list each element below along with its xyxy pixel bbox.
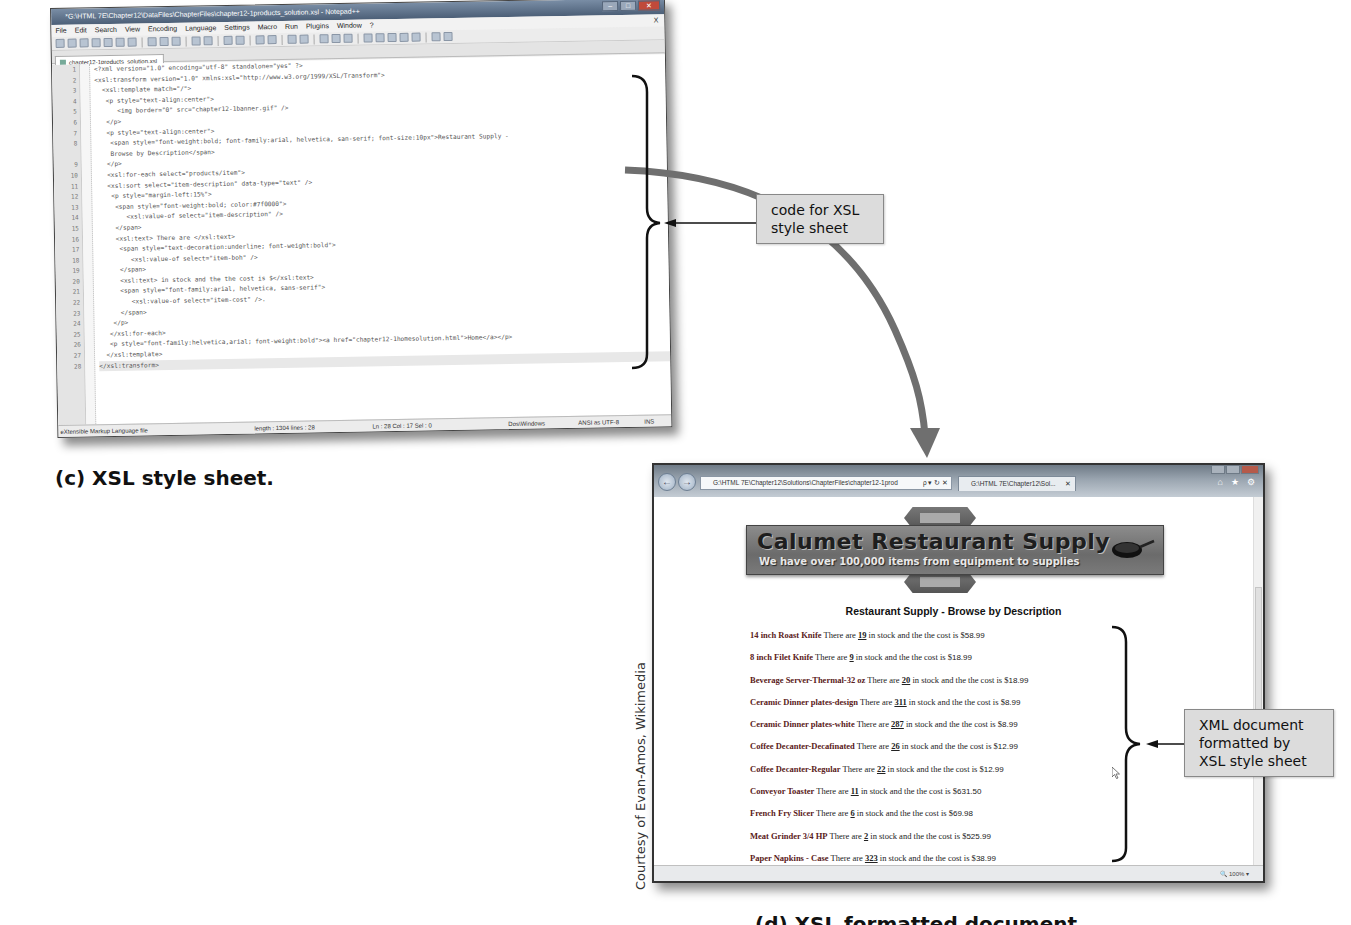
menu-window[interactable]: Window <box>337 20 362 32</box>
close-icon[interactable] <box>104 38 113 47</box>
notepad-plus-plus-window: *G:\HTML 7E\Chapter12\DataFiles\ChapterF… <box>50 0 672 438</box>
product-description: Coffee Decanter-Regular <box>750 764 841 774</box>
save-all-icon[interactable] <box>92 38 101 47</box>
sync-horizontal-icon[interactable] <box>300 34 309 43</box>
close-all-icon[interactable] <box>116 38 125 47</box>
vertical-scrollbar[interactable] <box>1253 497 1263 865</box>
line-number: 13 <box>54 202 78 213</box>
text-in-stock: in stock and the the cost is $ <box>904 719 1002 729</box>
toolbar-separator <box>425 32 426 42</box>
code-area[interactable]: 1<?xml version="1.0" encoding="utf-8" st… <box>90 54 671 424</box>
browser-minimize-button[interactable] <box>1211 465 1225 474</box>
settings-gear-icon[interactable]: ⚙ <box>1247 477 1255 487</box>
text-there-are: There are <box>855 719 891 729</box>
text-there-are: There are <box>858 697 894 707</box>
mouse-pointer-icon <box>1112 767 1120 779</box>
new-file-icon[interactable] <box>56 39 65 48</box>
address-url: G:\HTML 7E\Chapter12\Solutions\ChapterFi… <box>713 479 898 486</box>
minimize-button[interactable]: – <box>602 1 618 11</box>
notepad-window-title: *G:\HTML 7E\Chapter12\DataFiles\ChapterF… <box>65 8 360 20</box>
show-all-chars-icon[interactable] <box>331 34 340 43</box>
back-arrow-icon[interactable]: ← <box>658 473 676 491</box>
code-text: </p> <box>95 117 121 128</box>
zoom-level[interactable]: 🔍 100% ▾ <box>1220 866 1249 882</box>
menu-plugins[interactable]: Plugins <box>306 20 329 32</box>
product-cost: 12.99 <box>984 765 1004 774</box>
menu-language[interactable]: Language <box>185 22 216 35</box>
address-controls[interactable]: ρ ▾ ↻ ✕ <box>923 477 948 489</box>
line-number: 20 <box>56 276 80 287</box>
text-there-are: There are <box>828 853 864 863</box>
line-number: 27 <box>57 351 81 362</box>
text-in-stock: in stock and the the cost is $ <box>854 652 952 662</box>
undo-icon[interactable] <box>192 36 201 45</box>
scrollbar-thumb[interactable] <box>1255 587 1262 727</box>
browser-tab-label: G:\HTML 7E\Chapter12\Sol... <box>971 480 1056 487</box>
product-cost: 12.99 <box>998 742 1018 751</box>
banner-image: Calumet Restaurant Supply We have over 1… <box>746 507 1164 593</box>
status-file-type: eXtensible Markup Language file <box>60 424 148 438</box>
run-macro-multiple-icon[interactable] <box>399 33 408 42</box>
text-in-stock: in stock and the the cost is $ <box>885 764 983 774</box>
play-macro-icon[interactable] <box>387 33 396 42</box>
code-editor[interactable]: 1<?xml version="1.0" encoding="utf-8" st… <box>52 54 671 425</box>
status-insert-mode: INS <box>644 416 654 428</box>
print-icon[interactable] <box>128 37 137 46</box>
menu-encoding[interactable]: Encoding <box>148 23 177 36</box>
menu-file[interactable]: File <box>55 25 66 37</box>
save-macro-icon[interactable] <box>411 33 420 42</box>
menu-run[interactable]: Run <box>285 21 298 33</box>
close-document-button[interactable]: X <box>654 14 659 26</box>
product-item: Meat Grinder 3/4 HP There are 2 in stock… <box>750 830 1029 852</box>
launch-browser-icon[interactable] <box>431 32 440 41</box>
zoom-out-icon[interactable] <box>268 35 277 44</box>
paste-icon[interactable] <box>172 37 181 46</box>
find-icon[interactable] <box>224 36 233 45</box>
browser-tab[interactable]: G:\HTML 7E\Chapter12\Sol... ✕ <box>958 476 1076 491</box>
maximize-button[interactable]: □ <box>620 1 636 11</box>
tab-close-icon[interactable]: ✕ <box>1065 477 1071 490</box>
save-icon[interactable] <box>80 38 89 47</box>
menu-macro[interactable]: Macro <box>257 21 277 33</box>
product-cost: 18.99 <box>1008 676 1028 685</box>
product-description: Conveyor Toaster <box>750 786 814 796</box>
product-cost: 18.99 <box>952 653 972 662</box>
zoom-in-icon[interactable] <box>256 35 265 44</box>
status-encoding: ANSI as UTF-8 <box>578 416 619 429</box>
home-icon[interactable]: ⌂ <box>1218 477 1223 487</box>
menu-settings[interactable]: Settings <box>224 22 250 34</box>
browser-maximize-button[interactable] <box>1226 465 1240 474</box>
line-number: 24 <box>56 319 80 330</box>
sync-vertical-icon[interactable] <box>288 35 297 44</box>
product-item: Conveyor Toaster There are 11 in stock a… <box>750 785 1029 807</box>
window-controls: – □ ✕ <box>602 0 660 11</box>
word-wrap-icon[interactable] <box>320 34 329 43</box>
redo-icon[interactable] <box>204 36 213 45</box>
flow-arrow-head <box>910 428 940 458</box>
text-in-stock: in stock and the the cost is $ <box>910 675 1008 685</box>
text-in-stock: in stock and the the cost is $ <box>907 697 1005 707</box>
address-bar[interactable]: G:\HTML 7E\Chapter12\Solutions\ChapterFi… <box>700 476 952 490</box>
cut-icon[interactable] <box>148 37 157 46</box>
line-number: 7 <box>53 128 77 139</box>
indent-guide-icon[interactable] <box>343 34 352 43</box>
record-macro-icon[interactable] <box>363 33 372 42</box>
favorites-star-icon[interactable]: ★ <box>1231 477 1239 487</box>
open-file-icon[interactable] <box>68 39 77 48</box>
menu-search[interactable]: Search <box>95 24 117 36</box>
stop-macro-icon[interactable] <box>375 33 384 42</box>
menu-view[interactable]: View <box>125 23 140 35</box>
close-button[interactable]: ✕ <box>638 0 660 10</box>
spell-check-icon[interactable] <box>443 32 452 41</box>
line-number: 5 <box>53 107 77 118</box>
status-length: length : 1304 lines : 28 <box>254 421 315 434</box>
forward-arrow-icon[interactable]: → <box>678 473 696 491</box>
text-there-are: There are <box>841 764 877 774</box>
menu-edit[interactable]: Edit <box>75 24 87 36</box>
replace-icon[interactable] <box>236 36 245 45</box>
menu-help[interactable]: ? <box>370 19 374 31</box>
product-item: Ceramic Dinner plates-design There are 3… <box>750 696 1029 718</box>
copy-icon[interactable] <box>160 37 169 46</box>
browser-close-button[interactable] <box>1241 465 1259 474</box>
browser-tools: ⌂ ★ ⚙ <box>1218 477 1255 487</box>
